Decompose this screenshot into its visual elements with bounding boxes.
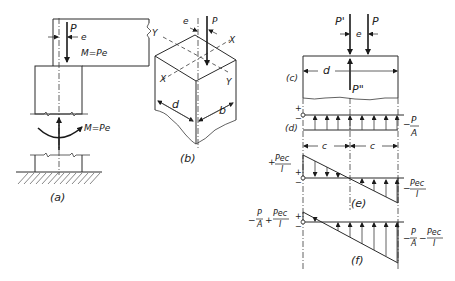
panel-e: c c + − + Pec I (e) − Pec I [268,141,426,210]
moment-arc [38,127,82,138]
svg-text:−: − [295,222,302,231]
break-line [147,23,151,38]
svg-text:I: I [416,190,419,199]
svg-text:P': P' [335,15,345,28]
svg-text:P: P [411,115,417,125]
block-edges [155,56,236,144]
svg-text:+: + [295,168,302,177]
svg-text:b: b [219,104,226,117]
svg-text:Y: Y [152,28,159,38]
panel-d: + − (d) − P A [285,104,419,138]
svg-text:−: − [295,114,302,123]
svg-text:I: I [279,220,282,229]
svg-text:+: + [265,215,273,225]
panel-f: + − − P A + Pec I − P A − Pec I (f) [248,209,443,267]
caption-b: (b) [180,152,196,165]
svg-text:P": P" [352,83,364,96]
svg-text:Pec: Pec [410,179,425,188]
label-moment-bottom: M=Pe [84,123,111,133]
svg-text:e: e [356,29,362,39]
caption-e: (e) [351,197,366,210]
svg-text:A: A [256,220,262,229]
caption-c: (c) [286,73,298,83]
block-top-face [155,35,236,81]
svg-text:Pec: Pec [273,209,288,218]
svg-text:P: P [257,209,262,218]
svg-text:−: − [295,178,302,187]
caption-f: (f) [351,254,363,267]
svg-text:−: − [403,119,411,129]
axis-x [162,40,230,80]
svg-text:X: X [228,35,236,45]
svg-text:d: d [323,64,331,77]
uniform-stress-arrows [315,116,397,130]
svg-text:A: A [410,239,416,248]
svg-text:Pec: Pec [427,228,442,237]
svg-text:Pec: Pec [275,154,290,163]
svg-text:c: c [322,141,327,151]
svg-text:I: I [433,239,436,248]
svg-text:−: − [248,215,256,225]
svg-text:P: P [372,15,379,28]
svg-text:−: − [403,233,411,243]
column-outline [35,66,82,114]
svg-text:P: P [212,16,218,26]
svg-text:d: d [172,98,180,111]
svg-text:I: I [281,165,284,174]
panel-c: P' P e d P" (c) [286,14,398,100]
caption-a: (a) [50,191,65,204]
panel-a: P e M=Pe M=Pe (a) [16,18,151,204]
svg-text:X: X [159,74,167,84]
caption-d: (d) [285,123,298,133]
svg-text:+: + [295,212,302,221]
svg-text:A: A [410,128,417,138]
panel-b: Y Y X X e P d b (b) [152,16,236,165]
svg-text:c: c [370,141,375,151]
eccentric-load-diagram: P e M=Pe M=Pe (a) [0,0,455,281]
svg-text:−: − [419,233,427,243]
label-p: P [70,22,77,35]
svg-text:+: + [295,104,302,113]
label-moment-top: M=Pe [81,48,108,58]
svg-text:Y: Y [226,77,233,87]
label-e: e [81,32,87,42]
svg-text:e: e [183,16,189,26]
svg-text:P: P [411,228,416,237]
